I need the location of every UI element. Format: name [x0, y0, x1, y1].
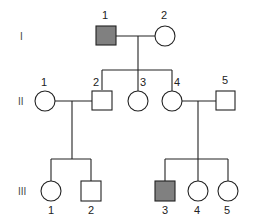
individual-ii-3-female	[128, 91, 148, 111]
individual-iii-4-female	[188, 181, 208, 201]
generation-label-i: I	[20, 31, 23, 42]
id-label-i-2: 2	[161, 9, 167, 21]
id-label-ii-3: 3	[140, 76, 146, 88]
id-label-iii-4: 4	[194, 204, 200, 216]
individual-ii-2-male	[92, 91, 112, 110]
generation-label-iii: III	[18, 186, 26, 197]
id-label-i-1: 1	[102, 9, 108, 21]
individual-iii-2-male	[81, 181, 101, 201]
individual-ii-4-female	[162, 91, 182, 111]
individual-i-2-female	[155, 26, 175, 46]
id-label-ii-2: 2	[93, 76, 99, 88]
individual-ii-1-female	[35, 91, 55, 111]
generation-label-ii: II	[18, 96, 24, 107]
id-label-iii-1: 1	[48, 204, 54, 216]
individual-iii-1-female	[41, 181, 61, 201]
id-label-iii-3: 3	[162, 204, 168, 216]
individual-iii-5-female	[218, 181, 238, 201]
id-label-ii-5: 5	[222, 74, 228, 86]
individual-i-1-affected-male	[96, 26, 116, 45]
id-label-iii-2: 2	[88, 204, 94, 216]
id-label-iii-5: 5	[224, 204, 230, 216]
id-label-ii-4: 4	[174, 76, 180, 88]
pedigree-chart: I II III 1 2 1 2 3 4 5 1 2 3 4 5	[0, 0, 254, 224]
id-label-ii-1: 1	[41, 76, 47, 88]
individual-ii-5-male	[216, 91, 235, 110]
individual-iii-3-affected-male	[155, 181, 175, 201]
